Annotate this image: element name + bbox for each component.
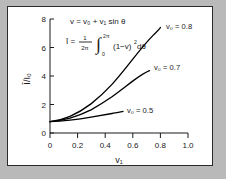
equation-fraction-numerator: 1 (83, 35, 87, 41)
y-tick-label-6: 6 (42, 44, 47, 53)
y-tick-label-0: 0 (42, 129, 47, 138)
x-tick-label-0p6: 0.6 (127, 141, 139, 150)
curve-label-v0-0p8: v₀ = 0.8 (166, 22, 192, 31)
x-axis-title: v₁ (115, 155, 123, 165)
x-tick-label-0p4: 0.4 (100, 141, 112, 150)
chart-svg: 8 6 4 2 0 0 0.2 0.4 0.6 0.8 1.0 v₁ Ī/I₀… (8, 7, 213, 166)
equation-fraction-denominator: 2π (81, 45, 88, 51)
y-tick-label-8: 8 (42, 15, 47, 24)
integral-sign: ∫ (95, 34, 102, 55)
x-tick-label-0p8: 0.8 (155, 141, 167, 150)
integral-upper-limit: 2π (103, 33, 110, 39)
integrand: (1−v) (113, 42, 132, 51)
integral-lower-limit: 0 (102, 51, 105, 57)
y-tick-label-4: 4 (42, 72, 47, 81)
y-tick-label-2: 2 (42, 101, 47, 110)
equation-integral-lhs: Ī = (66, 37, 75, 46)
x-tick-label-0p2: 0.2 (72, 141, 84, 150)
y-axis-title: Ī/I₀ (22, 73, 32, 85)
x-tick-label-0: 0 (48, 141, 53, 150)
plot-area: 8 6 4 2 0 0 0.2 0.4 0.6 0.8 1.0 v₁ Ī/I₀… (8, 7, 212, 165)
equation-top: v = v₀ + v₁ sin θ (70, 17, 126, 26)
curve-label-v0-0p7: v₀ = 0.7 (154, 63, 180, 72)
curve-label-v0-0p5: v₀ = 0.5 (127, 106, 153, 115)
x-tick-label-1p0: 1.0 (182, 141, 194, 150)
equation-integral: Ī = 1 2π ∫ 2π 0 (1−v) 2 dθ (66, 33, 146, 57)
figure-panel: 8 6 4 2 0 0 0.2 0.4 0.6 0.8 1.0 v₁ Ī/I₀… (7, 6, 213, 166)
